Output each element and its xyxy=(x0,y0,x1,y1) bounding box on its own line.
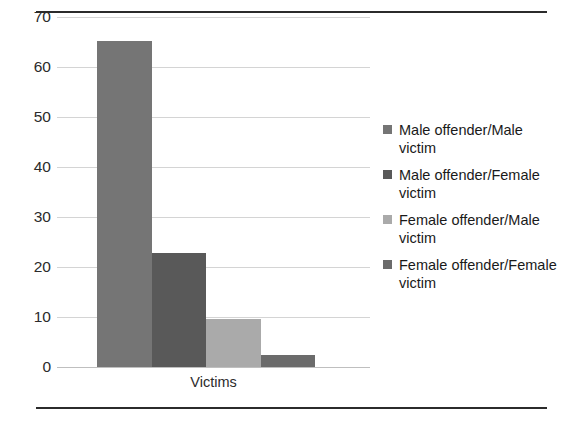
y-axis-tick-label: 40 xyxy=(5,159,51,175)
chart-legend: Male offender/Male victimMale offender/F… xyxy=(383,121,579,301)
y-axis: 706050403020100 xyxy=(0,17,51,367)
legend-item[interactable]: Female offender/Female victim xyxy=(383,256,579,292)
y-axis-tick-label: 30 xyxy=(5,209,51,225)
legend-item-label: Female offender/Male victim xyxy=(399,211,562,247)
bar-series-group xyxy=(57,17,370,367)
bar xyxy=(261,355,316,367)
y-axis-tick-label: 10 xyxy=(5,309,51,325)
bar xyxy=(97,41,152,368)
y-axis-tick-label: 70 xyxy=(5,9,51,25)
x-axis-label: Victims xyxy=(57,374,370,390)
legend-item[interactable]: Male offender/Female victim xyxy=(383,166,579,202)
figure-top-rule xyxy=(36,11,547,13)
y-axis-tick-label: 50 xyxy=(5,109,51,125)
figure-bottom-rule xyxy=(36,407,547,409)
legend-item-label: Female offender/Female victim xyxy=(399,256,562,292)
legend-swatch-icon xyxy=(383,260,392,269)
legend-item-label: Male offender/Male victim xyxy=(399,121,562,157)
legend-item[interactable]: Male offender/Male victim xyxy=(383,121,579,157)
legend-swatch-icon xyxy=(383,125,392,134)
legend-item-label: Male offender/Female victim xyxy=(399,166,562,202)
legend-swatch-icon xyxy=(383,215,392,224)
bar xyxy=(206,319,261,367)
chart-figure: 706050403020100 Victims Male offender/Ma… xyxy=(0,0,583,421)
legend-item[interactable]: Female offender/Male victim xyxy=(383,211,579,247)
y-axis-tick-label: 60 xyxy=(5,59,51,75)
y-axis-tick-label: 20 xyxy=(5,259,51,275)
plot-area xyxy=(57,17,370,367)
legend-swatch-icon xyxy=(383,170,392,179)
y-axis-tick-label: 0 xyxy=(5,359,51,375)
bar xyxy=(152,253,207,367)
gridline xyxy=(57,367,370,368)
